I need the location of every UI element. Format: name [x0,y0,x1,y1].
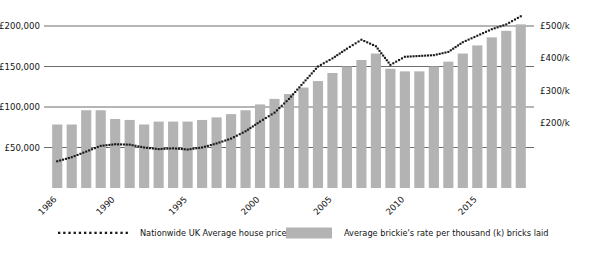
line-dot [201,146,203,148]
line-dot [300,84,302,86]
line-dot [404,56,406,58]
line-dot [388,62,390,64]
line-dot [97,146,99,148]
line-dot [288,98,290,100]
line-dot [103,145,105,147]
line-dot [105,144,107,146]
bar [110,119,120,188]
line-dot [271,113,273,115]
line-dot [281,105,283,107]
line-dot [369,43,371,45]
line-dot [108,144,110,146]
chart-root: £50,000£100,000£150,000£200,000 £200/k£3… [0,0,604,256]
legend-dotted-marker [94,232,96,234]
line-dot [114,143,116,145]
legend-dotted-marker [105,232,107,234]
bar [516,24,526,188]
legend-dotted-marker [79,232,81,234]
line-dot [224,139,226,141]
line-dot [85,151,87,153]
bar [125,120,135,188]
line-dot [410,55,412,57]
line-dot [392,62,394,64]
line-dot [398,59,400,61]
line-dot [88,149,90,151]
bar [487,37,497,188]
line-dot [334,56,336,58]
line-dot [242,132,244,134]
line-dot [129,144,131,146]
line-dot [137,145,139,147]
line-dot [126,144,128,146]
line-dot [62,159,64,161]
line-dot [189,148,191,150]
line-dot [363,40,365,42]
bar [371,54,381,188]
legend-dotted-marker [58,232,60,234]
line-dot [305,79,307,81]
line-dot [146,147,148,149]
line-dot [218,141,220,143]
line-dot [311,72,313,74]
line-dot [375,45,377,47]
line-dot [117,143,119,145]
line-dot [152,147,154,149]
line-dot [195,147,197,149]
line-dot [175,148,177,150]
line-dot [178,148,180,150]
left-axis-tick-label: £200,000 [0,21,40,31]
bar [400,71,410,188]
bar [342,67,352,189]
line-dot [331,57,333,59]
line-dot [259,121,261,123]
legend-swatch-brickie-rate [286,228,332,239]
line-dot [444,52,446,54]
line-dot [82,152,84,154]
line-dot [230,138,232,140]
line-dot [517,17,519,19]
bar [226,114,236,188]
bar [96,110,106,188]
line-dot [298,86,300,88]
line-dot [473,36,475,38]
bar [414,71,424,188]
bar [356,60,366,188]
line-dot [384,57,386,59]
line-dot [213,143,215,145]
line-dot [249,127,251,129]
bar [298,88,308,188]
line-dot [132,144,134,146]
line-dot [94,147,96,149]
bar [443,62,453,188]
line-dot [433,54,435,56]
line-dot [413,55,415,57]
line-dot [265,117,267,119]
right-axis-tick-label: £300/k [540,86,570,96]
line-dot [439,53,441,55]
line-dot [278,107,280,109]
line-dot [254,124,256,126]
line-dot [294,91,296,93]
line-dot [302,82,304,84]
line-dot [56,160,58,162]
line-dot [236,135,238,137]
line-dot [233,136,235,138]
line-dot [329,59,331,61]
right-axis-tick-label: £400/k [540,53,570,63]
line-dot [198,147,200,149]
line-dot [401,57,403,59]
line-dot [459,43,461,45]
legend-dotted-marker [110,232,112,234]
line-dot [427,54,429,56]
bar [385,69,395,188]
line-dot [239,133,241,135]
line-dot [468,39,470,41]
line-dot [111,144,113,146]
line-dot [343,49,345,51]
line-dot [68,157,70,159]
right-axis-tick-label: £200/k [540,118,570,128]
line-dot [181,148,183,150]
line-dot [216,142,218,144]
line-dot [346,48,348,50]
line-dot [100,145,102,147]
